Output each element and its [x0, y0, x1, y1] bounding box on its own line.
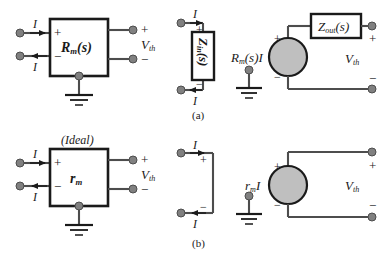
- block-output-voltage-label: Vth: [141, 38, 155, 53]
- block-output-plus: +: [141, 23, 148, 36]
- zin-current-bottom: I: [193, 95, 197, 107]
- thevenin-out-plus: +: [369, 32, 376, 45]
- b-block-input-minus: −: [54, 180, 61, 193]
- thevenin-source-plus: +: [274, 33, 281, 45]
- b-block-current-bottom: I: [33, 191, 37, 203]
- b-thevenin-output-terminal-bottom: [368, 213, 376, 221]
- short-current-bottom: I: [193, 218, 197, 230]
- b-ground-symbol: [65, 225, 93, 235]
- zout-label: Zout(s): [318, 20, 349, 35]
- source-ground-node: [245, 66, 253, 74]
- caption-b: (b): [192, 238, 205, 249]
- zin-plus: +: [196, 24, 203, 36]
- zin-minus: −: [196, 78, 203, 90]
- zin-terminal-top: [177, 19, 185, 27]
- output-terminal-top: [129, 26, 137, 34]
- transresistance-block-label: Rm(s): [61, 41, 92, 56]
- panel-b-thevenin-group: [269, 148, 376, 221]
- block-current-bottom: I: [33, 61, 37, 73]
- input-terminal-top: [16, 29, 24, 37]
- b-thevenin-source-label: rmI: [245, 179, 260, 194]
- b-input-terminal-top: [16, 159, 24, 167]
- b-block-output-minus: −: [141, 183, 148, 196]
- block-input-plus: +: [54, 26, 61, 39]
- b-ground-node: [75, 202, 83, 210]
- ideal-block-label: rm: [70, 172, 82, 187]
- short-plus: +: [200, 154, 207, 166]
- input-terminal-bottom: [16, 52, 24, 60]
- block-current-top: I: [33, 18, 37, 30]
- panel-b-short-group: [177, 149, 213, 217]
- b-thevenin-out-voltage-label: Vth: [345, 179, 359, 194]
- b-thevenin-source-plus: +: [274, 161, 281, 173]
- thevenin-source-label: Rm(s)I: [231, 51, 263, 66]
- panel-a-source-ground-group: [236, 66, 262, 98]
- b-output-terminal-top: [129, 156, 137, 164]
- thevenin-out-voltage-label: Vth: [345, 52, 359, 67]
- thevenin-output-terminal-top: [368, 22, 376, 30]
- b-block-output-voltage-label: Vth: [141, 168, 155, 183]
- b-output-terminal-bottom: [129, 185, 137, 193]
- zin-label: Zin(s): [195, 38, 210, 66]
- b-block-output-plus: +: [141, 153, 148, 166]
- b-input-terminal-bottom: [16, 182, 24, 190]
- block-input-minus: −: [54, 50, 61, 63]
- thevenin-output-terminal-bottom: [368, 85, 376, 93]
- b-thevenin-out-minus: −: [369, 199, 376, 212]
- b-source-ground-symbol: [236, 214, 262, 224]
- short-terminal-top: [177, 149, 185, 157]
- ideal-note: (Ideal): [61, 134, 94, 146]
- short-minus: −: [200, 201, 207, 213]
- b-thevenin-output-terminal-top: [368, 148, 376, 156]
- b-block-input-plus: +: [54, 156, 61, 169]
- caption-a: (a): [192, 110, 204, 121]
- circuit-figure: Rm(s) + − I I + − Vth Zin(s) + − I I Rm(…: [0, 0, 382, 258]
- b-thevenin-out-plus: +: [369, 159, 376, 172]
- thevenin-source-minus: −: [274, 71, 281, 83]
- source-ground-symbol: [236, 88, 262, 98]
- output-terminal-bottom: [129, 55, 137, 63]
- short-terminal-bottom: [177, 209, 185, 217]
- ground-node: [75, 72, 83, 80]
- zin-terminal-bottom: [177, 86, 185, 94]
- b-thevenin-source-minus: −: [274, 199, 281, 211]
- thevenin-out-minus: −: [369, 72, 376, 85]
- block-output-minus: −: [141, 53, 148, 66]
- zin-current-top: I: [193, 8, 197, 20]
- ground-symbol: [65, 95, 93, 105]
- panel-b-source-ground-group: [236, 192, 262, 224]
- short-current-top: I: [193, 139, 197, 151]
- b-block-current-top: I: [33, 148, 37, 160]
